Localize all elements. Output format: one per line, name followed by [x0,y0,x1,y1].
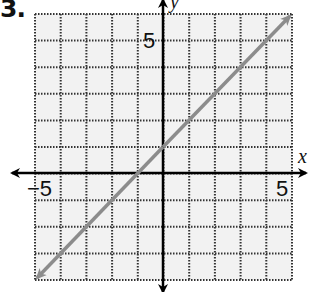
y-axis-label: y [168,0,179,13]
coordinate-plane: −5 5 5 x y [0,0,313,292]
x-min-tick-label: −5 [27,176,52,201]
y-max-tick-label: 5 [143,28,155,53]
x-max-tick-label: 5 [276,176,288,201]
x-axis-label: x [297,145,307,167]
